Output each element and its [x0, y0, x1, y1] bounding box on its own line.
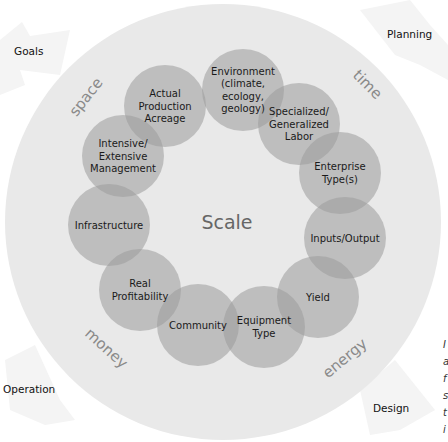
node-label-infrastructure: Infrastructure	[75, 220, 143, 231]
node-label-enterprise: Type(s)	[321, 174, 358, 185]
center-label: Scale	[201, 211, 252, 233]
node-label-acreage: Production	[138, 101, 191, 112]
node-label-labor: Specialized/	[269, 106, 330, 117]
node-label-acreage: Actual	[149, 88, 180, 99]
node-label-labor: Generalized	[269, 119, 329, 130]
node-label-environment: Environment	[211, 66, 275, 77]
node-label-environment: geology)	[221, 103, 265, 114]
node-label-management: Extensive	[99, 151, 148, 162]
corner-label-design: Design	[373, 402, 409, 414]
node-label-equipment: Type	[252, 328, 276, 339]
node-label-profitability: Real	[129, 278, 151, 289]
edge-fragment: s	[443, 390, 448, 401]
edge-fragment: f	[443, 373, 448, 384]
node-label-community: Community	[169, 320, 227, 331]
node-label-environment: ecology,	[222, 91, 264, 102]
scale-diagram: Environment(climate,ecology,geology)Spec…	[0, 0, 448, 442]
edge-fragment: a	[443, 356, 448, 367]
edge-fragment: t	[443, 407, 448, 418]
node-label-equipment: Equipment	[237, 315, 291, 326]
node-label-yield: Yield	[305, 292, 330, 303]
corner-label-planning: Planning	[387, 28, 432, 40]
node-label-profitability: Profitability	[112, 291, 169, 302]
edge-fragment: i	[443, 424, 446, 435]
node-label-management: Management	[90, 163, 156, 174]
corner-label-goals: Goals	[14, 45, 43, 57]
corner-label-operation: Operation	[3, 383, 55, 395]
node-label-labor: Labor	[285, 131, 314, 142]
right-edge-text-fragments: Iafsti	[443, 339, 448, 435]
node-label-environment: (climate,	[221, 78, 265, 89]
edge-fragment: I	[443, 339, 446, 350]
node-label-acreage: Acreage	[145, 113, 186, 124]
node-label-management: Intensive/	[98, 138, 148, 149]
node-label-enterprise: Enterprise	[314, 161, 365, 172]
node-label-inputs-output: Inputs/Output	[310, 233, 379, 244]
